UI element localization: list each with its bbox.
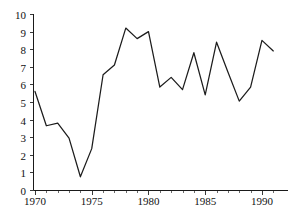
x-tick-label-1980: 1980 — [137, 195, 160, 207]
y-tick-label-9: 9 — [21, 27, 27, 39]
x-axis-tick-labels: 19701975198019851990 — [24, 195, 273, 207]
data-series-line — [35, 28, 273, 177]
x-tick-label-1990: 1990 — [251, 195, 274, 207]
x-tick-label-1975: 1975 — [81, 195, 104, 207]
x-tick-label-1985: 1985 — [194, 195, 217, 207]
line-chart: 012345678910 19701975198019851990 — [0, 0, 296, 218]
y-tick-label-3: 3 — [21, 132, 27, 144]
y-axis-ticks — [30, 15, 34, 191]
x-tick-label-1970: 1970 — [24, 195, 47, 207]
y-tick-label-1: 1 — [21, 167, 27, 179]
y-tick-label-8: 8 — [21, 44, 27, 56]
x-axis-ticks — [36, 191, 274, 195]
y-tick-label-6: 6 — [21, 79, 27, 91]
y-tick-label-10: 10 — [15, 9, 27, 21]
y-tick-label-2: 2 — [21, 150, 27, 162]
y-tick-label-4: 4 — [21, 115, 27, 127]
y-axis-tick-labels: 012345678910 — [15, 9, 27, 197]
chart-plot-area: 012345678910 19701975198019851990 — [0, 0, 296, 218]
y-tick-label-5: 5 — [21, 97, 27, 109]
y-tick-label-7: 7 — [21, 62, 27, 74]
